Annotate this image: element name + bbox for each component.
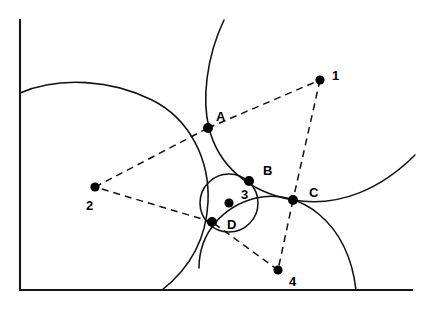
tangent-label-C: C — [309, 185, 319, 200]
circle-arc-4 — [199, 196, 356, 290]
circle-arc-group — [20, 20, 415, 290]
tangent-dot-B — [244, 176, 254, 186]
tangent-dot-D — [207, 217, 217, 227]
tangent-label-D: D — [227, 217, 236, 232]
center-label-2: 2 — [86, 198, 93, 213]
figure-canvas: 1 2 3 4 A B C D — [0, 0, 428, 310]
connector-1-C — [293, 80, 320, 200]
center-label-1: 1 — [332, 68, 339, 83]
connector-4-D — [212, 222, 278, 270]
axes-frame — [20, 20, 412, 290]
connector-C-4 — [278, 200, 293, 270]
connector-D-2 — [95, 187, 212, 222]
tangent-dot-C — [288, 195, 298, 205]
tangent-label-group: A B C D — [216, 109, 319, 232]
center-dot-group — [90, 75, 324, 274]
tangent-dot-group — [203, 123, 298, 227]
connector-group — [95, 80, 320, 270]
tangent-dot-A — [203, 123, 213, 133]
circle-arc-2 — [20, 82, 208, 290]
geometry-figure: 1 2 3 4 A B C D — [0, 0, 428, 310]
center-dot-2 — [90, 182, 99, 191]
center-label-3: 3 — [241, 187, 248, 202]
tangent-label-A: A — [216, 109, 226, 124]
center-dot-1 — [315, 75, 324, 84]
center-label-4: 4 — [289, 274, 297, 289]
center-dot-3 — [224, 198, 233, 207]
tangent-label-B: B — [263, 163, 272, 178]
connector-2-A — [95, 128, 208, 187]
center-dot-4 — [273, 265, 282, 274]
